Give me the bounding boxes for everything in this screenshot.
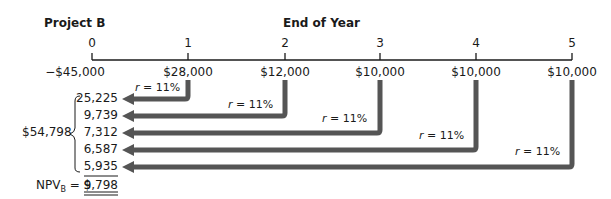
project-label: Project B — [44, 16, 105, 30]
axis-ticks — [92, 53, 572, 60]
year-label-3: 3 — [376, 36, 384, 50]
year-label-1: 1 — [184, 36, 192, 50]
cash-flow-2: $12,000 — [260, 65, 310, 79]
pv-sum: $54,798 — [22, 125, 72, 139]
rate-label-5: r = 11% — [515, 145, 560, 158]
axis-title: End of Year — [283, 16, 360, 30]
present-value-2: 9,739 — [58, 108, 118, 122]
year-label-4: 4 — [472, 36, 480, 50]
rate-label-3: r = 11% — [322, 112, 367, 125]
cash-flow-1: $28,000 — [163, 65, 213, 79]
cash-flow-0: −$45,000 — [45, 65, 105, 79]
cash-flow-5: $10,000 — [547, 65, 597, 79]
rate-label-1: r = 11% — [135, 81, 180, 94]
cash-flow-3: $10,000 — [355, 65, 405, 79]
present-value-4: 6,587 — [58, 142, 118, 156]
present-value-1: 25,225 — [58, 91, 118, 105]
rate-label-4: r = 11% — [419, 129, 464, 142]
arrowheads — [122, 93, 134, 173]
year-label-2: 2 — [281, 36, 289, 50]
cash-flow-4: $10,000 — [451, 65, 501, 79]
year-label-0: 0 — [88, 36, 96, 50]
present-value-5: 5,935 — [58, 159, 118, 173]
npv-value: 9,798 — [58, 178, 118, 192]
rate-label-2: r = 11% — [228, 98, 273, 111]
year-label-5: 5 — [568, 36, 576, 50]
